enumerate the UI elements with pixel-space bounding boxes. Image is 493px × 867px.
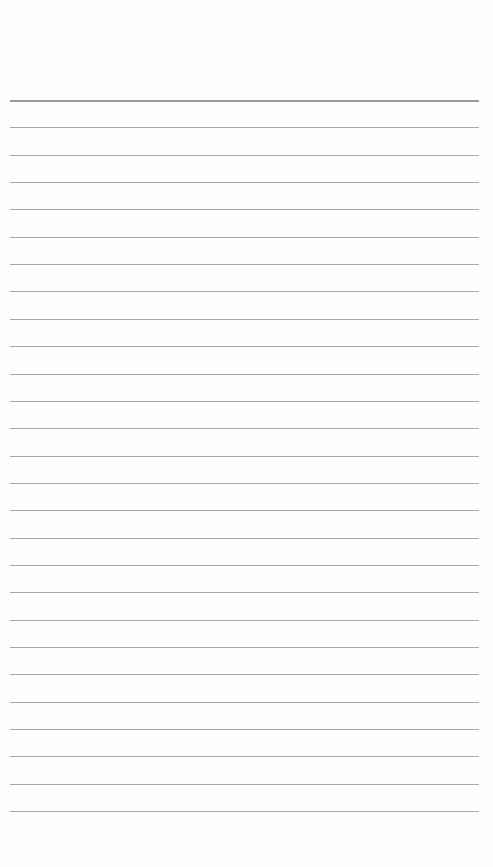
ruled-line bbox=[10, 592, 479, 593]
ruled-line bbox=[10, 784, 479, 785]
ruled-line bbox=[10, 374, 479, 375]
ruled-line bbox=[10, 319, 479, 320]
ruled-line bbox=[10, 538, 479, 539]
ruled-line bbox=[10, 756, 479, 757]
ruled-line bbox=[10, 182, 479, 183]
ruled-line bbox=[10, 456, 479, 457]
ruled-line bbox=[10, 100, 479, 102]
lined-paper-page bbox=[0, 0, 493, 867]
ruled-line bbox=[10, 702, 479, 703]
ruled-line bbox=[10, 510, 479, 511]
ruled-line bbox=[10, 811, 479, 812]
ruled-line bbox=[10, 401, 479, 402]
ruled-line bbox=[10, 346, 479, 347]
ruled-line bbox=[10, 674, 479, 675]
ruled-line bbox=[10, 155, 479, 156]
ruled-line bbox=[10, 291, 479, 292]
ruled-line bbox=[10, 729, 479, 730]
ruled-line bbox=[10, 620, 479, 621]
ruled-line bbox=[10, 428, 479, 429]
ruled-line bbox=[10, 127, 479, 128]
ruled-line bbox=[10, 565, 479, 566]
ruled-line bbox=[10, 237, 479, 238]
ruled-line bbox=[10, 264, 479, 265]
ruled-line bbox=[10, 483, 479, 484]
ruled-line bbox=[10, 647, 479, 648]
ruled-line bbox=[10, 209, 479, 210]
